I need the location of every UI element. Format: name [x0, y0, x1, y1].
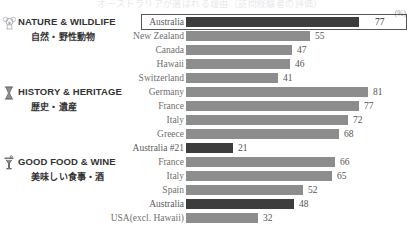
bar-row-label: Italy — [34, 171, 184, 182]
bar — [186, 199, 294, 209]
bar-row-label: New Zealand — [34, 31, 184, 42]
bar-row-label: Australia — [34, 17, 184, 28]
bar-row: USA(excl. Hawaii)32 — [0, 212, 420, 225]
bar-row-label: France — [34, 157, 184, 168]
bar-row: Italy72 — [0, 114, 420, 127]
bar-row: Germany81 — [0, 86, 420, 99]
bar-value-label: 47 — [297, 44, 307, 56]
bar-value-label: 72 — [353, 114, 363, 126]
bar — [186, 129, 339, 139]
bar — [186, 185, 303, 195]
bar-value-label: 55 — [315, 30, 325, 42]
bar-row: Canada47 — [0, 44, 420, 57]
bar-value-label: 65 — [337, 170, 347, 182]
bar-value-label: 48 — [299, 198, 309, 210]
bar-row: Greece68 — [0, 128, 420, 141]
bar-value-label: 81 — [373, 86, 383, 98]
bar-row: Australia48 — [0, 198, 420, 211]
bar — [186, 143, 233, 153]
chart-root: オーストラリアが選ばれる理由（訪問経験者の評価） (%) NATURE & WI… — [0, 0, 420, 234]
bar-value-label: 66 — [340, 156, 350, 168]
bar — [186, 87, 368, 97]
cropped-headline: オーストラリアが選ばれる理由（訪問経験者の評価） — [0, 0, 420, 9]
bar-row: Switzerland41 — [0, 72, 420, 85]
bar-value-label: 77 — [375, 16, 385, 28]
bar-value-label: 21 — [238, 142, 248, 154]
bar-row-label: Greece — [34, 129, 184, 140]
bar — [186, 17, 359, 27]
bar-value-label: 77 — [364, 100, 374, 112]
bar-row: France77 — [0, 100, 420, 113]
bar-row: Australia77 — [0, 16, 420, 29]
bar-row-label: Hawaii — [34, 59, 184, 70]
bar-row-label: Australia — [34, 199, 184, 210]
bar-row-label: Germany — [34, 87, 184, 98]
bar-row-label: Italy — [34, 115, 184, 126]
bar-row-label: Australia #21 — [34, 143, 184, 154]
bar — [186, 157, 335, 167]
bar-row: New Zealand55 — [0, 30, 420, 43]
bar-value-label: 41 — [283, 72, 293, 84]
bar — [186, 73, 278, 83]
bar-row: France66 — [0, 156, 420, 169]
bar-value-label: 52 — [308, 184, 318, 196]
bar-row-label: Switzerland — [34, 73, 184, 84]
bar — [186, 115, 348, 125]
bar-value-label: 68 — [344, 128, 354, 140]
bar-row-label: Canada — [34, 45, 184, 56]
bar — [186, 101, 359, 111]
bar-row-label: Spain — [34, 185, 184, 196]
bar — [186, 171, 332, 181]
bar — [186, 59, 290, 69]
bar-row: Italy65 — [0, 170, 420, 183]
bar-row: Hawaii46 — [0, 58, 420, 71]
bar-value-label: 46 — [295, 58, 305, 70]
bar — [186, 213, 258, 223]
bar — [186, 31, 310, 41]
bar-row: Australia #2121 — [0, 142, 420, 155]
bar — [186, 45, 292, 55]
bar-value-label: 32 — [263, 212, 273, 224]
bar-row-label: France — [34, 101, 184, 112]
bar-row: Spain52 — [0, 184, 420, 197]
bar-row-label: USA(excl. Hawaii) — [34, 213, 184, 224]
